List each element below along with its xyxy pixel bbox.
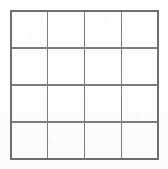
- grid-cell[interactable]: [11, 48, 48, 85]
- figure-canvas: [0, 0, 168, 169]
- grid-cell[interactable]: [121, 85, 158, 122]
- grid-cell[interactable]: [48, 85, 85, 122]
- grid-cell[interactable]: [48, 11, 85, 48]
- grid-cell[interactable]: [11, 85, 48, 122]
- grid-cell[interactable]: [11, 11, 48, 48]
- grid-cell[interactable]: [48, 48, 85, 85]
- grid-cell[interactable]: [85, 122, 122, 159]
- grid-cell[interactable]: [11, 122, 48, 159]
- grid-cell[interactable]: [85, 85, 122, 122]
- grid-cell[interactable]: [85, 48, 122, 85]
- grid-diagram: [0, 0, 168, 169]
- grid-cell[interactable]: [48, 122, 85, 159]
- grid-cell[interactable]: [121, 122, 158, 159]
- grid-cell[interactable]: [121, 11, 158, 48]
- grid-cell[interactable]: [85, 11, 122, 48]
- grid-cell[interactable]: [121, 48, 158, 85]
